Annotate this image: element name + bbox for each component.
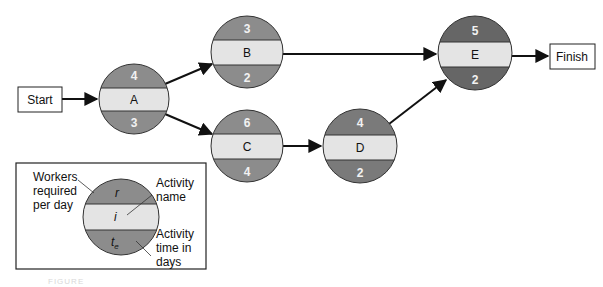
start-box: Start [18, 87, 62, 112]
finish-box: Finish [550, 44, 595, 69]
edge-d-e [389, 80, 446, 124]
legend-workers-3: per day [33, 198, 73, 212]
node-c: 6 C 4 [211, 110, 283, 182]
legend: r i te Workers required per day Activity… [16, 163, 206, 269]
node-d-name: D [356, 141, 365, 155]
node-a-workers: 4 [131, 69, 138, 83]
node-a-name: A [130, 93, 138, 107]
node-d: 4 D 2 [323, 109, 397, 183]
node-b: 3 B 2 [211, 16, 283, 88]
node-a: 4 A 3 [99, 64, 169, 134]
node-d-time: 2 [357, 166, 364, 180]
legend-time-3: days [156, 255, 181, 269]
node-c-time: 4 [244, 165, 251, 179]
legend-time-1: Activity [156, 227, 194, 241]
legend-name-1: Activity [156, 176, 194, 190]
node-a-time: 3 [131, 116, 138, 130]
node-c-name: C [243, 140, 252, 154]
figure-caption: FIGURE [48, 277, 84, 286]
edge-a-b [165, 64, 212, 84]
node-c-workers: 6 [244, 116, 251, 130]
start-label: Start [27, 93, 53, 107]
finish-label: Finish [556, 50, 588, 64]
network-diagram: Start Finish 4 A 3 3 B 2 [0, 0, 603, 287]
legend-i: i [114, 210, 117, 224]
legend-name-2: name [156, 190, 186, 204]
legend-workers-1: Workers [33, 170, 77, 184]
node-b-name: B [243, 46, 251, 60]
node-e-time: 2 [472, 73, 479, 87]
node-e-name: E [471, 48, 479, 62]
node-b-workers: 3 [244, 22, 251, 36]
legend-workers-2: required [33, 184, 77, 198]
node-e-workers: 5 [472, 24, 479, 38]
node-b-time: 2 [244, 71, 251, 85]
node-d-workers: 4 [357, 116, 364, 130]
edge-a-c [165, 114, 212, 134]
node-e: 5 E 2 [438, 16, 512, 90]
legend-time-2: time in [156, 241, 191, 255]
